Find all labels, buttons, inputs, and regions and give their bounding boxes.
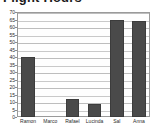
bar[interactable] (110, 20, 124, 118)
y-axis: 0510152025303540455055606570 (0, 12, 17, 117)
x-axis-tick-label: Marco (39, 118, 61, 124)
x-axis-tick-label: Lucinda (84, 118, 106, 124)
bar[interactable] (66, 99, 80, 117)
x-axis-tick-label: Sal (106, 118, 128, 124)
bar[interactable] (21, 57, 35, 117)
bar[interactable] (132, 21, 146, 117)
bar-series (17, 12, 150, 117)
x-axis-tick-label: Ramon (17, 118, 39, 124)
x-axis-tick-label: Rafael (61, 118, 83, 124)
bar[interactable] (88, 104, 102, 118)
x-axis-tick-label: Anna (128, 118, 150, 124)
bar-chart: Flight Hours 051015202530354045505560657… (0, 0, 152, 130)
x-axis: RamonMarcoRafaelLucindaSalAnna (17, 118, 150, 128)
chart-title: Flight Hours (3, 0, 82, 4)
